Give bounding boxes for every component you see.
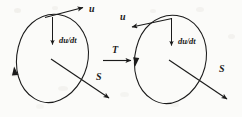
right-loop-group	[132, 15, 227, 103]
figure-container: u du/dt S T u du/dt S	[0, 0, 242, 117]
right-circulation-arrowhead	[132, 57, 139, 67]
right-surface-label: S	[219, 64, 225, 74]
left-acceleration-label: du/dt	[59, 36, 76, 45]
right-velocity-arrow	[132, 19, 172, 28]
right-velocity-label: u	[120, 12, 126, 22]
right-acceleration-label: du/dt	[178, 37, 195, 46]
left-loop-group	[11, 8, 109, 103]
transformation-label: T	[112, 45, 118, 55]
right-loop-curve	[134, 15, 206, 103]
left-surface-label: S	[96, 72, 102, 82]
left-velocity-label: u	[89, 4, 95, 14]
